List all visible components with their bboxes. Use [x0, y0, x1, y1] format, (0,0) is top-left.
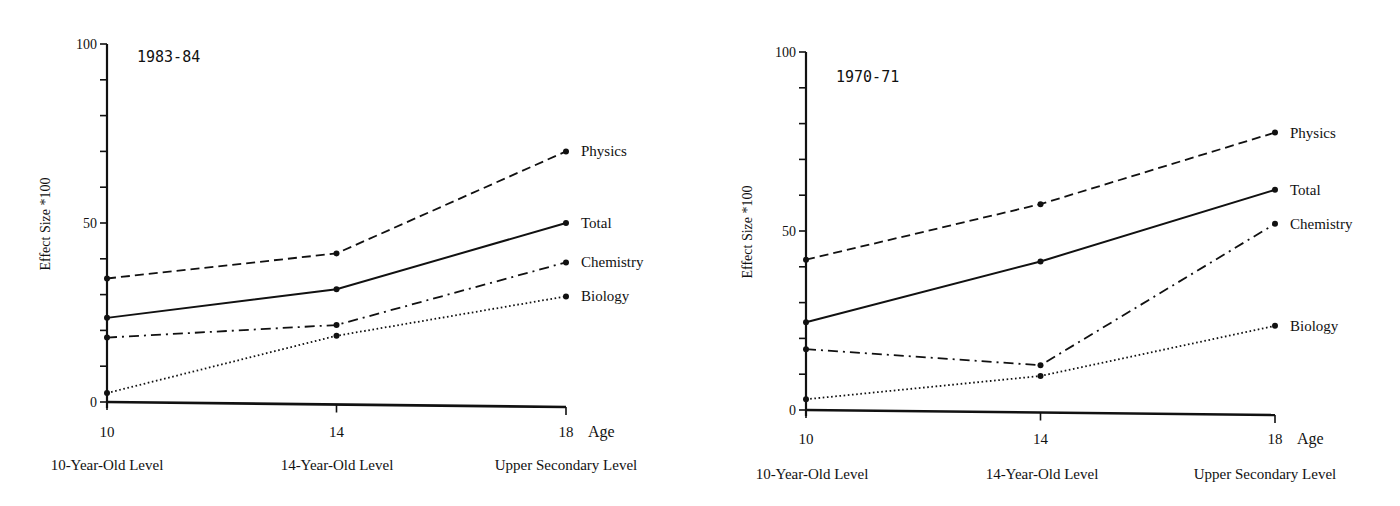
x-tick-label: 10 — [799, 431, 814, 447]
line-chart-svg: 0501001010-Year-Old Level1414-Year-Old L… — [0, 0, 700, 506]
y-axis-title: Effect Size *100 — [740, 185, 755, 278]
y-axis-title: Effect Size *100 — [38, 177, 53, 270]
series-line-physics — [806, 133, 1275, 260]
series-label-chemistry: Chemistry — [1290, 216, 1353, 232]
data-point — [104, 275, 110, 281]
x-tick-label: 18 — [559, 424, 574, 440]
data-point — [1038, 362, 1044, 368]
y-tick-label: 0 — [90, 395, 97, 410]
x-tick-label: 14 — [329, 424, 345, 440]
line-chart-svg: 0501001010-Year-Old Level1414-Year-Old L… — [700, 0, 1400, 506]
data-point — [1038, 258, 1044, 264]
series-label-chemistry: Chemistry — [581, 254, 644, 270]
x-level-label: 14-Year-Old Level — [986, 466, 1099, 482]
data-point — [1272, 187, 1278, 193]
x-level-label: 14-Year-Old Level — [281, 457, 394, 473]
chart-title: 1983-84 — [137, 48, 200, 66]
data-point — [803, 346, 809, 352]
series-label-biology: Biology — [581, 288, 630, 304]
x-level-label: Upper Secondary Level — [495, 457, 637, 473]
x-level-label: 10-Year-Old Level — [51, 457, 164, 473]
data-point — [563, 293, 569, 299]
y-tick-label: 50 — [782, 224, 796, 239]
data-point — [803, 257, 809, 263]
y-tick-label: 100 — [76, 37, 97, 52]
x-tick-label: 10 — [100, 424, 115, 440]
x-level-label: 10-Year-Old Level — [756, 466, 869, 482]
series-line-biology — [107, 296, 566, 393]
y-tick-label: 100 — [775, 45, 796, 60]
data-point — [1038, 373, 1044, 379]
series-label-total: Total — [1290, 182, 1321, 198]
data-point — [334, 250, 340, 256]
y-tick-label: 50 — [83, 216, 97, 231]
data-point — [1038, 201, 1044, 207]
data-point — [1272, 323, 1278, 329]
data-point — [334, 286, 340, 292]
data-point — [563, 220, 569, 226]
data-point — [1272, 130, 1278, 136]
chart-1983-84: 0501001010-Year-Old Level1414-Year-Old L… — [0, 0, 700, 506]
data-point — [803, 319, 809, 325]
data-point — [1272, 221, 1278, 227]
chart-title: 1970-71 — [836, 68, 899, 86]
data-point — [104, 335, 110, 341]
series-label-physics: Physics — [581, 143, 627, 159]
series-label-total: Total — [581, 215, 612, 231]
data-point — [563, 259, 569, 265]
series-label-physics: Physics — [1290, 125, 1336, 141]
x-tick-label: 14 — [1033, 431, 1049, 447]
data-point — [104, 315, 110, 321]
x-axis-title: Age — [588, 423, 615, 441]
data-point — [563, 148, 569, 154]
series-line-total — [806, 190, 1275, 322]
x-tick-label: 18 — [1268, 431, 1283, 447]
series-line-chemistry — [806, 224, 1275, 365]
series-line-total — [107, 223, 566, 318]
y-tick-label: 0 — [789, 403, 796, 418]
chart-1970-71: 0501001010-Year-Old Level1414-Year-Old L… — [700, 0, 1400, 506]
data-point — [803, 396, 809, 402]
data-point — [334, 333, 340, 339]
data-point — [104, 390, 110, 396]
data-point — [334, 322, 340, 328]
x-axis-title: Age — [1297, 430, 1324, 448]
series-line-physics — [107, 151, 566, 278]
series-label-biology: Biology — [1290, 318, 1339, 334]
x-level-label: Upper Secondary Level — [1194, 466, 1336, 482]
